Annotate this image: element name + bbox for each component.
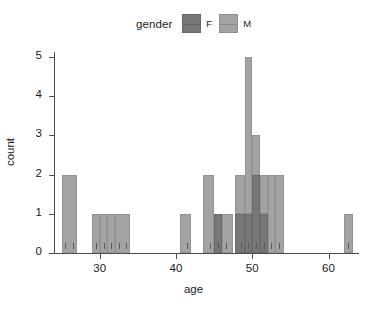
bar-f — [252, 175, 260, 253]
x-axis-title: age — [0, 283, 387, 295]
x-axis-tick-label: 60 — [309, 262, 349, 274]
rug-tick — [256, 243, 257, 249]
y-axis-tick — [49, 214, 54, 215]
x-axis-tick-label: 50 — [232, 262, 272, 274]
x-axis-tick-label: 30 — [80, 262, 120, 274]
rug-tick — [104, 243, 105, 249]
y-axis-tick-label: 5 — [0, 49, 42, 61]
rug-tick — [119, 243, 120, 249]
y-axis-tick — [49, 253, 54, 254]
y-axis-tick — [49, 96, 54, 97]
x-axis-tick — [252, 254, 253, 259]
rug-tick — [73, 243, 74, 249]
bar-m — [115, 214, 130, 253]
y-axis-tick-label: 1 — [0, 206, 42, 218]
rug-tick — [248, 243, 249, 249]
y-axis-tick — [49, 175, 54, 176]
rug-tick — [241, 243, 242, 249]
bar-m — [222, 214, 233, 253]
bar-m — [275, 175, 284, 253]
y-axis-tick-label: 4 — [0, 88, 42, 100]
chart-root: gender F M 012345 30405060 age count — [0, 0, 387, 309]
rug-tick — [111, 243, 112, 249]
x-axis-tick — [329, 254, 330, 259]
x-axis-tick-label: 40 — [156, 262, 196, 274]
bar-m — [252, 135, 260, 174]
y-axis-tick — [49, 57, 54, 58]
bar-m — [62, 175, 77, 253]
y-axis-line — [54, 52, 55, 254]
y-axis-tick — [49, 135, 54, 136]
x-axis-tick — [176, 254, 177, 259]
rug-tick — [210, 243, 211, 249]
bar-m — [260, 175, 268, 214]
plot-panel: 012345 30405060 age count — [0, 0, 387, 309]
bar-m — [180, 214, 191, 253]
rug-tick — [279, 243, 280, 249]
bar-m — [268, 175, 276, 253]
y-axis-tick-label: 0 — [0, 245, 42, 257]
bar-m — [203, 175, 214, 253]
bar-m — [235, 175, 244, 214]
rug-tick — [65, 243, 66, 249]
rug-tick — [187, 243, 188, 249]
rug-tick — [271, 243, 272, 249]
x-axis-tick — [100, 254, 101, 259]
rug-tick — [226, 243, 227, 249]
rug-tick — [264, 243, 265, 249]
rug-tick — [348, 243, 349, 249]
bar-m — [245, 57, 253, 214]
rug-tick — [96, 243, 97, 249]
y-axis-title: count — [4, 112, 16, 192]
rug-tick — [218, 243, 219, 249]
rug-tick — [126, 243, 127, 249]
